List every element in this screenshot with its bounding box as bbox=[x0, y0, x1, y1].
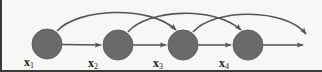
node-label-x1: x1 bbox=[24, 56, 34, 68]
node-label-x3-subscript: 3 bbox=[159, 62, 163, 71]
node-label-x3: x3 bbox=[153, 57, 163, 69]
curved-edge-x1-x3 bbox=[57, 12, 176, 31]
edge-x1-x2 bbox=[62, 45, 101, 46]
node-label-x4-subscript: 4 bbox=[225, 62, 229, 71]
node-x3[interactable] bbox=[168, 30, 198, 60]
node-x4[interactable] bbox=[233, 30, 263, 60]
markov-chain-diagram: x1 x2 x3 x4 bbox=[0, 0, 322, 72]
node-label-x4: x4 bbox=[219, 57, 229, 69]
node-label-x2: x2 bbox=[88, 57, 98, 69]
node-label-x1-subscript: 1 bbox=[30, 61, 34, 70]
node-label-x2-subscript: 2 bbox=[94, 62, 98, 71]
node-x1[interactable] bbox=[32, 29, 62, 59]
node-x2[interactable] bbox=[103, 30, 133, 60]
